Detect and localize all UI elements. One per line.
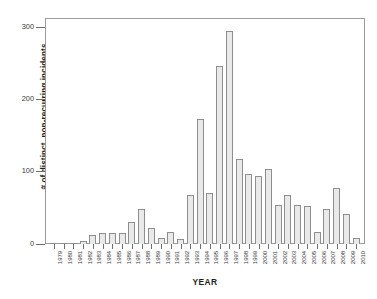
bar-slot (195, 19, 205, 244)
x-tick (132, 244, 133, 249)
x-tick (317, 244, 318, 249)
x-tick (103, 244, 104, 249)
x-tick (346, 244, 347, 249)
x-tick-label: 2010 (359, 251, 366, 264)
bar-slot (127, 19, 137, 244)
bar-slot (322, 19, 332, 244)
bar (333, 188, 340, 244)
bar (236, 159, 243, 244)
x-tick-label: 1988 (144, 251, 151, 264)
bar (216, 66, 223, 244)
bar-slot (117, 19, 127, 244)
x-tick-label: 2002 (281, 251, 288, 264)
bar-slot (176, 19, 186, 244)
x-tick-label: 2003 (290, 251, 297, 264)
bar (314, 232, 321, 244)
bar-slot (215, 19, 225, 244)
bar-slot (166, 19, 176, 244)
bar (187, 195, 194, 244)
bar-series (46, 19, 364, 244)
bar-slot (351, 19, 361, 244)
bar (167, 232, 174, 244)
bar-slot (69, 19, 79, 244)
x-tick (161, 244, 162, 249)
x-tick-label: 1980 (66, 251, 73, 264)
bar-slot (225, 19, 235, 244)
x-tick (181, 244, 182, 249)
x-tick-label: 1984 (105, 251, 112, 264)
x-tick-label: 1982 (86, 251, 93, 264)
x-tick-label: 2001 (271, 251, 278, 264)
bar (119, 233, 126, 244)
bar-slot (108, 19, 118, 244)
x-tick-label: 1983 (95, 251, 102, 264)
y-tick-0: 0 (0, 244, 377, 245)
bar (275, 205, 282, 244)
bar-slot (156, 19, 166, 244)
x-tick (220, 244, 221, 249)
bar (109, 233, 116, 244)
x-tick-label: 1997 (232, 251, 239, 264)
bar (284, 195, 291, 244)
x-tick (210, 244, 211, 249)
x-tick-label: 1996 (222, 251, 229, 264)
x-tick (278, 244, 279, 249)
bar (197, 119, 204, 244)
x-tick (288, 244, 289, 249)
x-tick-label: 1993 (193, 251, 200, 264)
x-tick-label: 1986 (125, 251, 132, 264)
x-tick (298, 244, 299, 249)
bar-slot (234, 19, 244, 244)
x-tick-label: 1987 (134, 251, 141, 264)
x-tick (327, 244, 328, 249)
x-tick (229, 244, 230, 249)
x-tick-label: 1995 (212, 251, 219, 264)
bar-slot (254, 19, 264, 244)
bar (148, 228, 155, 244)
bar-slot (49, 19, 59, 244)
bar (323, 209, 330, 244)
bar-slot (137, 19, 147, 244)
x-tick (268, 244, 269, 249)
bar-slot (273, 19, 283, 244)
bar (304, 206, 311, 244)
x-tick (259, 244, 260, 249)
x-tick-label: 1992 (183, 251, 190, 264)
bar-slot (283, 19, 293, 244)
y-tick-label-200: 200 (6, 94, 34, 103)
x-tick-label: 1999 (251, 251, 258, 264)
x-tick (249, 244, 250, 249)
x-tick (307, 244, 308, 249)
bar (99, 233, 106, 244)
bar-slot (78, 19, 88, 244)
bar-slot (244, 19, 254, 244)
bar-slot (186, 19, 196, 244)
x-tick-label: 2005 (310, 251, 317, 264)
x-tick (190, 244, 191, 249)
x-tick-label: 2000 (261, 251, 268, 264)
bar (265, 169, 272, 244)
x-tick-label: 1985 (115, 251, 122, 264)
bar (138, 209, 145, 244)
x-tick-label: 1994 (203, 251, 210, 264)
bar (226, 31, 233, 244)
bar-slot (332, 19, 342, 244)
x-tick (337, 244, 338, 249)
bar-slot (147, 19, 157, 244)
chart-figure: # of distinct, non-recurring incidents 3… (0, 0, 377, 299)
bar (128, 222, 135, 244)
bar-slot (293, 19, 303, 244)
bar (294, 205, 301, 244)
x-tick (93, 244, 94, 249)
x-tick (151, 244, 152, 249)
x-tick-label: 1998 (242, 251, 249, 264)
y-tick-label-100: 100 (6, 166, 34, 175)
x-tick-label: 2008 (339, 251, 346, 264)
x-tick (54, 244, 55, 249)
bar (206, 193, 213, 244)
x-tick-label: 1989 (154, 251, 161, 264)
bar-slot (205, 19, 215, 244)
y-tick-label-300: 300 (6, 22, 34, 31)
x-tick (171, 244, 172, 249)
bar-slot (264, 19, 274, 244)
